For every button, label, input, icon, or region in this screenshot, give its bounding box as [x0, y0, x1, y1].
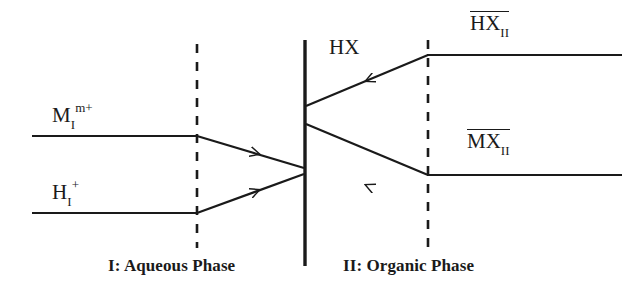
mx-flux-arrowhead	[366, 185, 384, 193]
diagram-svg	[0, 0, 642, 305]
mx-flux-line	[306, 124, 428, 175]
mx-organic-overline-group: MXII	[467, 129, 510, 155]
metal-ion-flux-line	[197, 136, 304, 168]
proton-base: H	[52, 180, 67, 204]
aqueous-phase-label: I: Aqueous Phase	[108, 257, 235, 274]
metal-ion-base: M	[52, 103, 71, 127]
metal-ion-label: MIm+	[52, 103, 93, 129]
hx-interface-base: HX	[329, 35, 359, 59]
metal-ion-superscript: m+	[75, 100, 92, 115]
mx-organic-base: MX	[467, 129, 501, 153]
hx-organic-base: HX	[470, 11, 500, 35]
proton-subscript: I	[67, 194, 72, 209]
mx-organic-label: MXII	[467, 129, 510, 155]
proton-label: HI+	[52, 180, 79, 206]
hx-organic-overline-group: HXII	[470, 11, 509, 37]
diagram-canvas: MIm+ HI+ HX HXII MXII I: Aqueous Phase I…	[0, 0, 642, 305]
proton-superscript: +	[72, 177, 79, 192]
organic-phase-label: II: Organic Phase	[343, 257, 474, 274]
metal-ion-subscript: I	[71, 117, 76, 132]
hx-flux-line	[306, 55, 428, 106]
proton-flux-line	[197, 174, 304, 213]
hx-organic-subscript: II	[500, 25, 509, 40]
mx-organic-subscript: II	[501, 143, 510, 158]
hx-interface-label: HX	[329, 37, 359, 58]
hx-organic-label: HXII	[470, 11, 509, 37]
